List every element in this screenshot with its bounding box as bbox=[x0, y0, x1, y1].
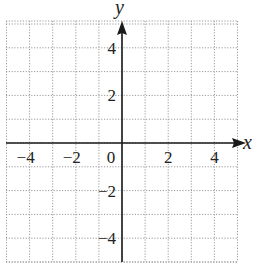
x-tick-label: 4 bbox=[210, 148, 219, 167]
x-tick-label: 2 bbox=[164, 148, 173, 167]
y-axis-arrow-icon bbox=[117, 21, 127, 35]
y-tick-label: 4 bbox=[108, 39, 117, 58]
x-axis-label: x bbox=[242, 131, 252, 153]
y-tick-label: 2 bbox=[108, 86, 117, 105]
y-tick-label: −4 bbox=[98, 229, 117, 248]
coordinate-plane: −4−202442−2−4 x y bbox=[0, 0, 267, 277]
x-tick-label: 0 bbox=[107, 148, 116, 167]
axes bbox=[6, 21, 246, 262]
x-tick-label: −2 bbox=[63, 148, 81, 167]
y-axis-label: y bbox=[113, 0, 124, 19]
x-tick-label: −4 bbox=[17, 148, 36, 167]
y-tick-label: −2 bbox=[98, 182, 116, 201]
